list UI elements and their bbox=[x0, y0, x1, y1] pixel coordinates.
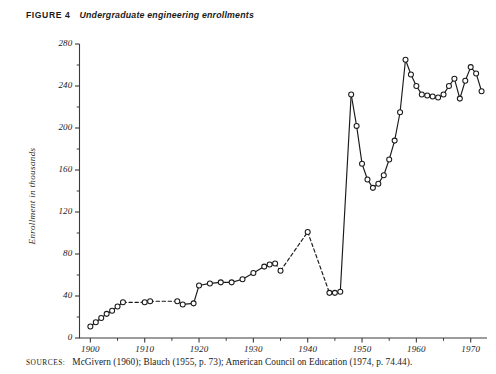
sources-text: McGivern (1960); Blauch (1955, p. 73); A… bbox=[72, 357, 412, 367]
x-tick-label: 1920 bbox=[179, 344, 219, 354]
marker-layer bbox=[88, 57, 484, 329]
x-tick-label: 1950 bbox=[342, 344, 382, 354]
y-tick-label: 280 bbox=[58, 38, 72, 48]
x-tick-label: 1940 bbox=[288, 344, 328, 354]
y-tick-label: 80 bbox=[63, 248, 72, 258]
y-tick-label: 200 bbox=[58, 122, 72, 132]
x-tick-label: 1960 bbox=[396, 344, 436, 354]
sources-note: Sources:McGivern (1960); Blauch (1955, p… bbox=[26, 357, 412, 367]
x-tick-label: 1900 bbox=[70, 344, 110, 354]
line-chart-plot bbox=[0, 0, 496, 374]
series-layer bbox=[90, 60, 481, 327]
y-tick-label: 120 bbox=[58, 206, 72, 216]
sources-label: Sources: bbox=[26, 358, 65, 367]
y-tick-label: 0 bbox=[68, 332, 73, 342]
y-tick-label: 160 bbox=[58, 164, 72, 174]
x-tick-label: 1910 bbox=[125, 344, 165, 354]
axis-layer bbox=[75, 44, 487, 343]
x-tick-label: 1930 bbox=[233, 344, 273, 354]
y-tick-label: 40 bbox=[63, 290, 72, 300]
y-tick-label: 240 bbox=[58, 80, 72, 90]
x-tick-label: 1970 bbox=[451, 344, 491, 354]
figure-container: FIGURE 4Undergraduate engineering enroll… bbox=[0, 0, 496, 374]
